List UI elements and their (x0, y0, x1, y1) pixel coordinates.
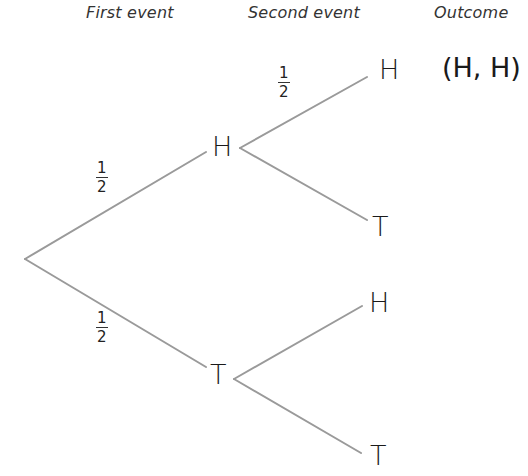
probability-root-to-t: 1 2 (96, 311, 108, 345)
fraction-numerator: 1 (96, 311, 108, 328)
fraction-numerator: 1 (278, 66, 290, 83)
probability-h-to-h: 1 2 (278, 66, 290, 100)
node-first-t: T (210, 361, 227, 388)
node-second-hh: H (379, 56, 399, 83)
branch-t-to-t (234, 379, 361, 453)
fraction-denominator: 2 (97, 178, 107, 195)
fraction-numerator: 1 (96, 161, 108, 178)
node-second-tt: T (370, 442, 387, 469)
node-second-ht: T (372, 213, 389, 240)
fraction-denominator: 2 (279, 83, 289, 100)
fraction-denominator: 2 (97, 328, 107, 345)
branch-t-to-h (234, 306, 362, 379)
node-first-h: H (212, 133, 232, 160)
header-outcome: Outcome (434, 3, 508, 22)
node-second-th: H (369, 289, 389, 316)
header-first-event: First event (86, 3, 174, 22)
outcome-hh: (H, H) (442, 54, 521, 81)
branch-root-to-h (25, 152, 206, 259)
probability-root-to-h: 1 2 (96, 161, 108, 195)
branch-root-to-t (25, 259, 206, 367)
header-second-event: Second event (248, 3, 360, 22)
branch-h-to-t (240, 148, 367, 220)
branch-h-to-h (240, 77, 367, 148)
tree-diagram: First event Second event Outcome H T H T… (0, 0, 528, 476)
